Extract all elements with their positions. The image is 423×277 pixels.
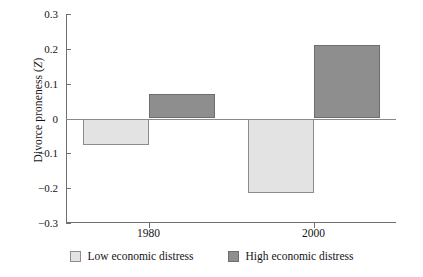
y-axis-title: Divorce proneness (Z) (32, 10, 44, 210)
x-tick-label-1980: 1980 (104, 227, 194, 239)
x-tick-label-2000: 2000 (269, 227, 359, 239)
y-axis-title-symbol: Z (32, 61, 44, 68)
legend-label-high: High economic distress (246, 250, 354, 262)
y-tick-label: 0.3 (0, 9, 58, 20)
bar-1980-low (83, 119, 149, 145)
legend-item-low[interactable]: Low economic distress (70, 250, 194, 262)
bar-2000-high (314, 45, 380, 119)
y-tick-label: 0.1 (0, 78, 58, 89)
legend-swatch-high-icon (228, 251, 239, 262)
y-tick-label: 0 (0, 113, 58, 124)
y-tick-label: 0.2 (0, 43, 58, 54)
legend-label-low: Low economic distress (88, 250, 194, 262)
y-tick-label: −0.2 (0, 183, 58, 194)
legend-swatch-low-icon (70, 251, 81, 262)
y-tick-mark (66, 223, 71, 224)
y-axis-title-paren: ) (32, 58, 44, 62)
chart-legend: Low economic distress High economic dist… (0, 250, 423, 262)
legend-item-high[interactable]: High economic distress (228, 250, 354, 262)
y-tick-label: −0.1 (0, 148, 58, 159)
chart-figure: Divorce proneness (Z) 0.30.20.10−0.1−0.2… (0, 0, 423, 277)
bar-2000-low (248, 119, 314, 194)
y-tick-label: −0.3 (0, 218, 58, 229)
bar-1980-high (149, 94, 215, 118)
